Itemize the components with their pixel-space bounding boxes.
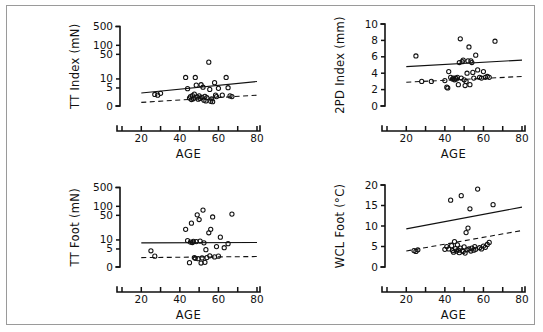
y-tick-label: 2: [371, 83, 378, 95]
y-axis-line: [116, 187, 120, 267]
panel-tt-foot: 051050100500TT Foot (mN)20406080AGE: [7, 167, 278, 332]
data-point: [208, 87, 212, 91]
x-tick-label: 40: [438, 293, 451, 305]
y-tick-label: 0: [106, 100, 113, 112]
y-tick-label: 8: [371, 34, 378, 46]
x-tick-label: 60: [212, 132, 225, 144]
data-point: [493, 39, 497, 43]
data-point: [224, 75, 228, 79]
x-tick-label: 80: [515, 293, 528, 305]
data-point: [207, 60, 211, 64]
x-axis-title: AGE: [441, 147, 467, 161]
data-point: [449, 198, 453, 202]
data-point: [189, 221, 193, 225]
y-tick-label: 0: [106, 261, 113, 273]
panel-2pd-index: 02468102PD Index (mm)20406080AGE: [272, 6, 543, 172]
y-tick-label: 500: [93, 181, 113, 193]
y-tick-label: 0: [371, 100, 378, 112]
x-axis-line: [117, 287, 260, 292]
x-tick-label: 60: [212, 293, 225, 305]
data-point: [195, 213, 199, 217]
data-point: [459, 194, 463, 198]
data-point: [464, 230, 468, 234]
data-point: [197, 217, 201, 221]
x-tick-label: 40: [173, 293, 186, 305]
data-point: [218, 235, 222, 239]
y-axis-title: WCL Foot (°C): [333, 184, 347, 269]
data-point: [476, 68, 480, 72]
data-point: [214, 244, 218, 248]
y-tick-label: 0: [371, 261, 378, 273]
y-axis-line: [116, 26, 120, 106]
panel-wcl-foot: 05101520WCL Foot (°C)20406080AGE: [272, 167, 543, 332]
data-point: [463, 83, 467, 87]
y-axis-title: TT Index (mN): [68, 23, 82, 110]
panel-tt-index: 051050100500TT Index (mN)20406080AGE: [7, 6, 278, 172]
x-axis-line: [382, 126, 525, 131]
data-point: [476, 187, 480, 191]
x-tick-label: 60: [477, 132, 490, 144]
y-tick-label: 10: [365, 220, 378, 232]
data-point: [193, 75, 197, 79]
y-tick-label: 6: [371, 50, 378, 62]
data-point: [220, 93, 224, 97]
y-tick-label: 15: [365, 199, 378, 211]
x-tick-label: 20: [135, 132, 148, 144]
y-tick-label: 10: [100, 233, 113, 245]
data-point: [201, 208, 205, 212]
x-tick-label: 80: [515, 132, 528, 144]
data-point: [209, 227, 213, 231]
figure-frame: 051050100500TT Index (mN)20406080AGE 024…: [6, 5, 535, 325]
data-point: [194, 83, 198, 87]
x-axis-title: AGE: [441, 308, 467, 322]
data-point: [149, 249, 153, 253]
data-point: [465, 71, 469, 75]
data-point: [447, 69, 451, 73]
data-point: [216, 86, 220, 90]
data-point: [456, 83, 460, 87]
y-axis-line: [381, 24, 385, 106]
data-point: [474, 53, 478, 57]
data-point: [212, 81, 216, 85]
data-point: [184, 227, 188, 231]
data-point: [466, 226, 470, 230]
data-point: [468, 207, 472, 211]
x-tick-label: 80: [250, 132, 263, 144]
y-tick-label: 20: [365, 179, 378, 191]
data-point: [230, 212, 234, 216]
y-tick-label: 100: [93, 39, 113, 51]
data-point: [420, 79, 424, 83]
y-axis-title: TT Foot (mN): [68, 188, 82, 267]
y-tick-label: 10: [100, 72, 113, 84]
x-tick-label: 20: [400, 293, 413, 305]
x-tick-label: 40: [438, 132, 451, 144]
data-point: [481, 69, 485, 73]
y-axis-title: 2PD Index (mm): [333, 16, 347, 114]
x-axis-line: [117, 126, 260, 131]
data-point: [184, 75, 188, 79]
y-tick-label: 5: [371, 240, 378, 252]
data-point: [414, 54, 418, 58]
x-axis-title: AGE: [176, 147, 202, 161]
y-tick-label: 4: [371, 67, 378, 79]
regression-line-solid: [406, 207, 522, 229]
data-point: [491, 203, 495, 207]
data-point: [472, 76, 476, 80]
data-point: [468, 83, 472, 87]
data-point: [467, 45, 471, 49]
x-tick-label: 80: [250, 293, 263, 305]
x-axis-line: [382, 287, 525, 292]
data-point: [458, 37, 462, 41]
y-tick-label: 500: [93, 20, 113, 32]
data-point: [226, 86, 230, 90]
x-tick-label: 20: [400, 132, 413, 144]
data-point: [204, 248, 208, 252]
data-point: [471, 70, 475, 74]
y-tick-label: 100: [93, 200, 113, 212]
x-axis-title: AGE: [176, 308, 202, 322]
data-point: [222, 246, 226, 250]
x-tick-label: 20: [135, 293, 148, 305]
data-point: [450, 244, 454, 248]
x-tick-label: 40: [173, 132, 186, 144]
data-point: [211, 215, 215, 219]
